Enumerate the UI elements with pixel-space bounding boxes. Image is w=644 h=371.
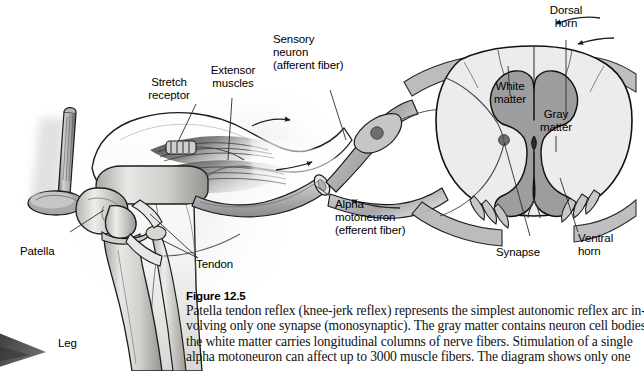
- figure-caption: Figure 12.5 Patella tendon reflex (knee-…: [186, 289, 638, 365]
- label-gray-matter: Gray matter: [518, 108, 594, 134]
- caption-line: the white matter carries longitudinal co…: [186, 334, 638, 349]
- sensory-cell-body: [371, 127, 383, 139]
- figure-page: Patella Leg Stretch receptor Extensor mu…: [0, 0, 644, 371]
- caption-line: alpha motoneuron can affect up to 3000 m…: [186, 349, 638, 364]
- label-white-matter: White matter: [470, 80, 550, 106]
- label-extensor-muscles: Extensor muscles: [192, 64, 274, 90]
- label-alpha-motoneuron: Alpha motoneuron (efferent fiber): [335, 198, 405, 237]
- label-patella: Patella: [20, 245, 54, 258]
- label-ventral-horn: Ventral horn: [578, 232, 613, 258]
- caption-line: Patella tendon reflex (knee-jerk reflex)…: [186, 303, 638, 318]
- figure-caption-text: Patella tendon reflex (knee-jerk reflex)…: [186, 303, 638, 365]
- spinal-cord-cross-section: [404, 46, 636, 246]
- figure-number: Figure 12.5: [186, 289, 638, 303]
- label-synapse: Synapse: [496, 246, 540, 259]
- caption-line: volving only one synapse (monosynaptic).…: [186, 318, 638, 333]
- label-dorsal-horn: Dorsal horn: [525, 4, 607, 30]
- label-tendon: Tendon: [196, 258, 233, 271]
- label-leg: Leg: [58, 337, 77, 350]
- foot-wedge: [0, 332, 46, 368]
- label-sensory-neuron: Sensory neuron (afferent fiber): [273, 33, 343, 72]
